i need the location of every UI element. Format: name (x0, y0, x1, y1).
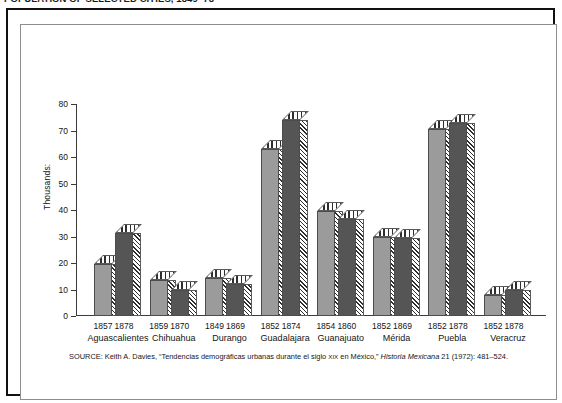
bar-side-face (299, 120, 308, 316)
y-axis-tick (71, 210, 76, 211)
bar-front-face (449, 123, 467, 316)
bar[interactable] (449, 114, 467, 316)
y-axis-tick-label: 40 (59, 206, 68, 215)
y-axis-tick (71, 316, 76, 317)
bar[interactable] (317, 202, 335, 316)
bar-front-face (338, 219, 356, 316)
bar-side-face (355, 219, 364, 316)
bar-front-face (505, 290, 523, 317)
bar[interactable] (261, 140, 279, 316)
y-axis-tick (71, 184, 76, 185)
x-axis-city-label: Veracruz (464, 333, 552, 343)
source-note: SOURCE: Keith A. Davies, “Tendencias dem… (21, 352, 556, 361)
x-axis-year-label: 1878 (499, 321, 529, 331)
bar-front-face (94, 264, 112, 316)
y-axis-tick-label: 10 (59, 285, 68, 294)
x-axis-year-label: 1869 (220, 321, 250, 331)
x-axis-year-label: 1870 (165, 321, 195, 331)
bar-group (261, 104, 309, 316)
bar-front-face (226, 284, 244, 316)
y-axis-tick (71, 290, 76, 291)
bar-group (373, 104, 421, 316)
figure-caption-top: POPULATION OF SELECTED CITIES, 1849–78 (4, 0, 214, 4)
source-smallcaps: XIX (328, 353, 338, 360)
bar[interactable] (505, 281, 523, 317)
x-axis-year-label: 1874 (276, 321, 306, 331)
figure-inner-frame: Thousands: 01020304050607080 18571878Agu… (20, 24, 557, 400)
bar-front-face (205, 278, 223, 316)
x-axis-year-label: 1878 (443, 321, 473, 331)
bar-front-face (394, 238, 412, 316)
bar-top-face (394, 229, 421, 238)
bar-side-face (188, 290, 197, 317)
bar-top-face (226, 275, 253, 284)
y-axis-title: Thousands: (42, 164, 52, 210)
y-axis-tick (71, 157, 76, 158)
bar-front-face (317, 211, 335, 316)
bar[interactable] (94, 255, 112, 316)
bar[interactable] (394, 229, 412, 316)
y-axis-tick (71, 104, 76, 105)
bar-front-face (171, 290, 189, 317)
bar-front-face (261, 149, 279, 316)
x-axis-year-label: 1860 (332, 321, 362, 331)
y-axis-line (76, 104, 77, 316)
plot-area: 01020304050607080 (76, 104, 546, 316)
y-axis-tick-label: 0 (63, 312, 68, 321)
bar-top-face (282, 111, 309, 120)
y-axis-tick (71, 263, 76, 264)
bar-top-face (338, 210, 365, 219)
y-axis-tick-label: 50 (59, 179, 68, 188)
x-axis-year-label: 1878 (109, 321, 139, 331)
bar-front-face (428, 129, 446, 316)
y-axis-tick-label: 60 (59, 153, 68, 162)
bar[interactable] (115, 224, 133, 316)
y-axis-tick (71, 131, 76, 132)
bar[interactable] (205, 269, 223, 316)
bar-top-face (150, 271, 177, 280)
bar-group (150, 104, 198, 316)
bar-side-face (411, 238, 420, 316)
y-axis-tick-label: 80 (59, 100, 68, 109)
bar-front-face (282, 120, 300, 316)
bar[interactable] (373, 228, 391, 317)
bar-group (484, 104, 532, 316)
bar-side-face (466, 123, 475, 316)
source-mid: en México,” (338, 352, 380, 361)
bar-front-face (150, 280, 168, 316)
bar-top-face (171, 281, 198, 290)
y-axis-tick-label: 20 (59, 259, 68, 268)
bar-group (428, 104, 476, 316)
bar-top-face (449, 114, 476, 123)
y-axis-tick-label: 30 (59, 232, 68, 241)
figure-outer-frame: Thousands: 01020304050607080 18571878Agu… (6, 8, 555, 396)
bar-group (205, 104, 253, 316)
bar[interactable] (150, 271, 168, 316)
bar-group (94, 104, 142, 316)
bar[interactable] (428, 120, 446, 316)
bar[interactable] (171, 281, 189, 317)
bar-front-face (484, 295, 502, 316)
bar-top-face (505, 281, 532, 290)
y-axis-tick-label: 70 (59, 126, 68, 135)
bar-side-face (243, 284, 252, 316)
bar-front-face (373, 237, 391, 317)
x-axis-year-label: 1869 (388, 321, 418, 331)
y-axis-tick (71, 237, 76, 238)
bar-front-face (115, 233, 133, 316)
source-journal-title: Historia Mexicana (381, 352, 440, 361)
bar[interactable] (484, 286, 502, 316)
bar[interactable] (338, 210, 356, 316)
bar-top-face (115, 224, 142, 233)
bar-group (317, 104, 365, 316)
bar[interactable] (282, 111, 300, 316)
bar[interactable] (226, 275, 244, 316)
source-suffix: 21 (1972): 481–524. (439, 352, 508, 361)
bar-side-face (522, 290, 531, 317)
source-prefix: SOURCE: Keith A. Davies, “Tendencias dem… (69, 352, 328, 361)
bar-side-face (132, 233, 141, 316)
